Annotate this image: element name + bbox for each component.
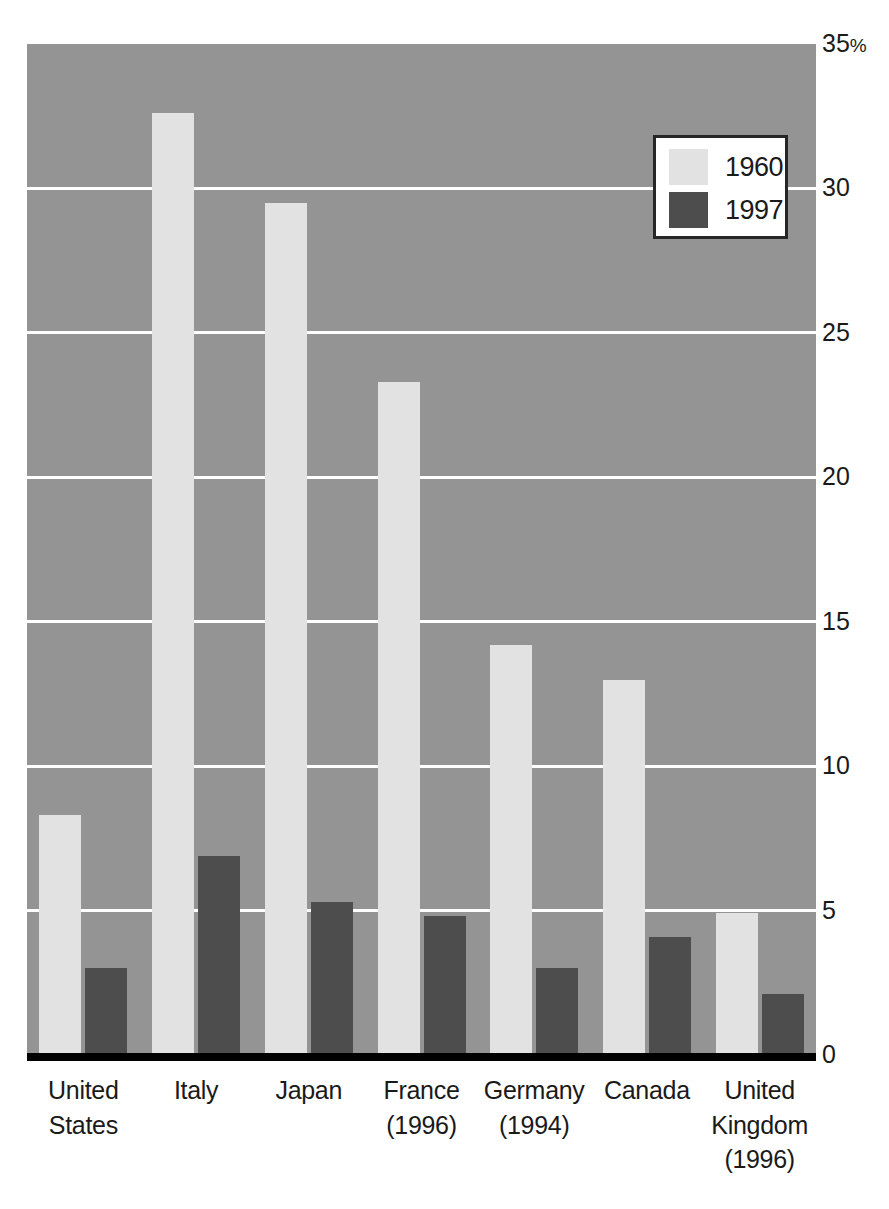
- x-tick-line: (1994): [478, 1108, 591, 1143]
- x-tick-line: United: [27, 1073, 140, 1108]
- bar-1960-6: [716, 913, 758, 1055]
- x-tick-line: States: [27, 1108, 140, 1143]
- gridline-15: [27, 620, 816, 623]
- x-tick-label-5: Canada: [591, 1073, 704, 1108]
- legend-swatch-1960: [669, 149, 708, 185]
- bar-chart-figure: 1960 1997 35%302520151050 UnitedStatesIt…: [0, 0, 889, 1209]
- gridline-10: [27, 765, 816, 768]
- x-tick-label-6: UnitedKingdom(1996): [703, 1073, 816, 1177]
- x-tick-label-0: UnitedStates: [27, 1073, 140, 1142]
- gridline-5: [27, 909, 816, 912]
- y-tick-label-20: 20: [822, 464, 850, 489]
- gridline-25: [27, 331, 816, 334]
- x-tick-line: (1996): [703, 1142, 816, 1177]
- x-axis: UnitedStatesItalyJapanFrance(1996)German…: [27, 1073, 816, 1203]
- x-tick-line: Kingdom: [703, 1108, 816, 1143]
- bar-1997-1: [198, 856, 240, 1055]
- x-tick-label-4: Germany(1994): [478, 1073, 591, 1142]
- x-tick-line: (1996): [365, 1108, 478, 1143]
- bar-1997-3: [424, 916, 466, 1055]
- y-axis: 35%302520151050: [822, 0, 889, 1100]
- x-tick-line: Canada: [591, 1073, 704, 1108]
- legend-label-1960: 1960: [725, 154, 783, 181]
- x-tick-line: Italy: [140, 1073, 253, 1108]
- legend-swatch-1997: [669, 192, 708, 228]
- y-tick-label-25: 25: [822, 320, 850, 345]
- x-tick-label-3: France(1996): [365, 1073, 478, 1142]
- y-tick-label-5: 5: [822, 898, 836, 923]
- y-tick-label-10: 10: [822, 753, 850, 778]
- bar-1960-4: [490, 645, 532, 1055]
- bar-1960-1: [152, 113, 194, 1055]
- x-tick-line: United: [703, 1073, 816, 1108]
- x-tick-label-2: Japan: [252, 1073, 365, 1108]
- bar-1960-3: [378, 382, 420, 1055]
- x-tick-line: Germany: [478, 1073, 591, 1108]
- x-tick-line: France: [365, 1073, 478, 1108]
- bar-1997-5: [649, 937, 691, 1055]
- chart-legend: 1960 1997: [653, 135, 788, 239]
- x-axis-baseline: [27, 1053, 816, 1061]
- legend-entry-1997: 1997: [669, 192, 783, 228]
- gridline-20: [27, 476, 816, 479]
- x-tick-line: Japan: [252, 1073, 365, 1108]
- y-tick-label-15: 15: [822, 609, 850, 634]
- y-tick-label-0: 0: [822, 1042, 836, 1067]
- bar-1997-6: [762, 994, 804, 1055]
- bar-1997-4: [536, 968, 578, 1055]
- bar-1997-0: [85, 968, 127, 1055]
- x-tick-label-1: Italy: [140, 1073, 253, 1108]
- bar-1960-5: [603, 680, 645, 1056]
- bar-1997-2: [311, 902, 353, 1055]
- legend-label-1997: 1997: [725, 197, 783, 224]
- legend-entry-1960: 1960: [669, 149, 783, 185]
- bar-1960-0: [39, 815, 81, 1055]
- y-tick-label-35: 35%: [822, 31, 867, 56]
- bar-1960-2: [265, 203, 307, 1055]
- y-tick-label-30: 30: [822, 175, 850, 200]
